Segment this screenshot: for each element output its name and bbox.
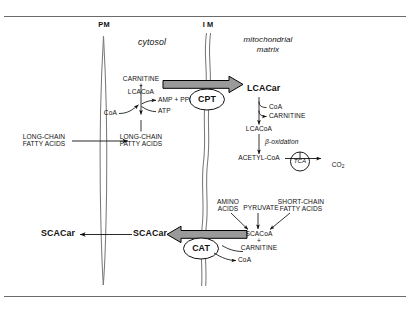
cpt-enzyme-label: CPT [198, 95, 216, 104]
tca-cycle-label: TCA [294, 158, 307, 164]
matrix-label-line2: matrix [257, 46, 279, 54]
co2-label: CO2 [324, 155, 345, 175]
plasma-membrane [100, 36, 107, 285]
plasma-membrane-label: PM [98, 21, 109, 29]
cytosol-label: cytosol [138, 38, 166, 47]
beta-oxidation-label: β-oxidation [265, 139, 298, 146]
diagram-canvas [0, 0, 410, 311]
coa-input-label: CoA [104, 110, 117, 117]
amino-acids-line2: ACIDS [218, 206, 239, 213]
inner-membrane-label: I M [203, 21, 214, 29]
pyruvate-label: PYRUVATE [243, 205, 278, 212]
scfa-line2: FATTY ACIDS [280, 206, 323, 213]
lcacoa-cytosol-label: LCACoA [128, 89, 154, 96]
matrix-carnitine-release-label: CARNITINE [269, 113, 305, 120]
matrix-coa-release-label: CoA [269, 104, 282, 111]
acetyl-coa-label: ACETYL-CoA [238, 155, 280, 162]
matrix-label-line1: mitochondrial [244, 36, 293, 44]
carnitine-shuttle-figure: PM I M cytosol mitochondrial matrix CPT … [0, 0, 410, 311]
cytosolic-lcfa-line2: FATTY ACIDS [120, 141, 163, 148]
atp-input-label: ATP [158, 108, 171, 115]
extracellular-lcfa-line2: FATTY ACIDS [23, 141, 66, 148]
co2-text: CO [332, 161, 342, 168]
cat-enzyme-label: CAT [192, 244, 210, 253]
lcacoa-matrix-label: LCACoA [246, 126, 272, 133]
scacar-extracellular-label: SCACar [41, 229, 75, 238]
cat-coa-release-label: CoA [238, 257, 251, 264]
scacar-cytosol-label: SCACar [133, 229, 167, 238]
amp-ppi-output-label: AMP + PPi [158, 97, 191, 104]
lower-carnitine-label: CARNITINE [241, 245, 277, 252]
co2-subscript: 2 [342, 164, 345, 169]
lcacar-matrix-label: LCACar [247, 84, 280, 93]
